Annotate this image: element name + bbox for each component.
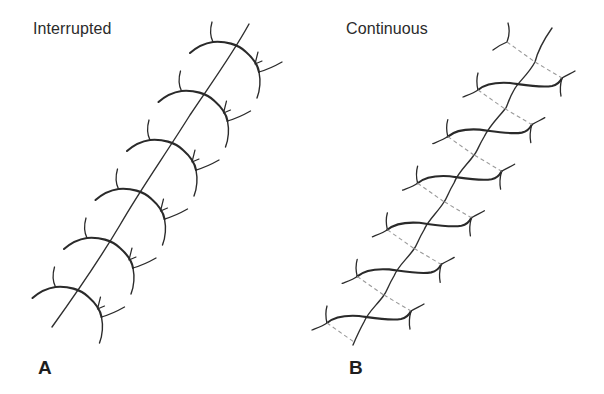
interrupted-stitch xyxy=(190,22,282,98)
incision-line-a xyxy=(52,24,249,327)
interrupted-suture-panel xyxy=(33,22,283,343)
start-knot xyxy=(493,23,509,50)
continuous-suture-panel xyxy=(312,23,575,345)
continuous-stitch xyxy=(463,62,575,109)
suture-diagram xyxy=(0,0,604,394)
incision-line-b xyxy=(353,28,552,345)
